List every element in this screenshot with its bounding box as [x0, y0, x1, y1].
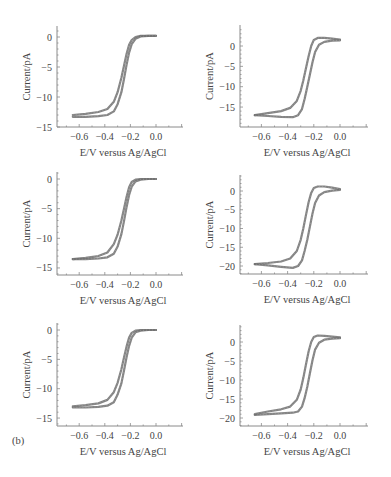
y-axis-label: Current/pA	[21, 350, 32, 398]
x-tick-label: −0.4	[96, 131, 114, 142]
voltammogram-panel-row2-left: 0−5−10−15−0.6−0.4−0.20.0E/V versus Ag/Ag…	[21, 172, 183, 306]
x-axis-label: E/V versus Ag/AgCl	[80, 295, 167, 306]
cv-trace-reverse	[73, 330, 156, 408]
y-tick-label: −5	[224, 356, 235, 367]
x-axis-label: E/V versus Ag/AgCl	[264, 147, 351, 158]
cyclic-voltammogram-figure: 0−5−10−15−0.6−0.4−0.20.0E/V versus Ag/Ag…	[0, 0, 391, 477]
y-tick-label: 0	[230, 337, 235, 348]
x-tick-label: −0.2	[305, 131, 323, 142]
y-tick-label: −5	[41, 354, 52, 365]
y-tick-label: −20	[219, 413, 235, 424]
y-tick-label: −10	[219, 81, 235, 92]
x-axis-label: E/V versus Ag/AgCl	[264, 294, 351, 305]
y-tick-label: −15	[36, 122, 52, 133]
cv-trace-forward	[255, 336, 340, 415]
x-tick-label: 0.0	[150, 279, 163, 290]
y-tick-label: −15	[219, 102, 235, 113]
x-tick-label: −0.4	[96, 430, 114, 441]
x-tick-label: 0.0	[150, 131, 163, 142]
voltammogram-panel-row1-left: 0−5−10−15−0.6−0.4−0.20.0E/V versus Ag/Ag…	[21, 26, 183, 158]
y-axis-label: Current/pA	[204, 52, 215, 100]
x-axis-label: E/V versus Ag/AgCl	[264, 446, 351, 457]
y-tick-label: −5	[224, 61, 235, 72]
x-tick-label: 0.0	[334, 278, 347, 289]
y-tick-label: 0	[47, 32, 52, 43]
y-tick-label: −10	[219, 375, 235, 386]
y-tick-label: −5	[41, 62, 52, 73]
x-tick-label: −0.6	[70, 430, 88, 441]
y-tick-label: 0	[230, 41, 235, 52]
x-tick-label: −0.6	[252, 131, 270, 142]
cv-trace-forward	[255, 187, 340, 265]
y-axis-label: Current/pA	[204, 351, 215, 399]
x-tick-label: −0.2	[121, 279, 139, 290]
y-tick-label: −15	[219, 394, 235, 405]
cv-trace-reverse	[255, 338, 340, 415]
cv-trace-forward	[73, 36, 156, 115]
x-tick-label: −0.4	[279, 430, 297, 441]
voltammogram-panel-row2-right: 0−5−10−15−20−0.6−0.4−0.20.0E/V versus Ag…	[204, 175, 368, 305]
x-tick-label: −0.6	[252, 430, 270, 441]
x-tick-label: −0.4	[96, 279, 114, 290]
y-axis-label: Current/pA	[21, 52, 32, 100]
y-axis-label: Current/pA	[204, 200, 215, 248]
x-tick-label: 0.0	[334, 131, 347, 142]
x-tick-label: −0.2	[305, 430, 323, 441]
y-tick-label: −10	[219, 223, 235, 234]
cv-trace-forward	[73, 179, 156, 259]
voltammogram-panel-row3-right: 0−5−10−15−20−0.6−0.4−0.20.0E/V versus Ag…	[204, 325, 368, 457]
y-tick-label: 0	[47, 174, 52, 185]
y-tick-label: −20	[219, 261, 235, 272]
y-tick-label: −15	[36, 413, 52, 424]
y-tick-label: 0	[47, 325, 52, 336]
y-tick-label: −5	[41, 203, 52, 214]
x-tick-label: −0.2	[121, 131, 139, 142]
x-tick-label: −0.2	[305, 278, 323, 289]
voltammogram-panel-row1-right: 0−5−10−15−0.6−0.4−0.20.0E/V versus Ag/Ag…	[204, 25, 368, 158]
voltammogram-panel-row3-left: 0−5−10−15−0.6−0.4−0.20.0E/V versus Ag/Ag…	[21, 323, 183, 457]
cv-trace-forward	[73, 330, 156, 406]
x-axis-label: E/V versus Ag/AgCl	[80, 446, 167, 457]
y-tick-label: 0	[230, 186, 235, 197]
y-tick-label: −10	[36, 383, 52, 394]
x-tick-label: −0.4	[279, 131, 297, 142]
y-axis-label: Current/pA	[21, 199, 32, 247]
panel-tag: (b)	[12, 435, 25, 447]
y-tick-label: −10	[36, 233, 52, 244]
x-tick-label: −0.2	[121, 430, 139, 441]
y-tick-label: −15	[36, 262, 52, 273]
cv-trace-reverse	[255, 40, 340, 117]
x-tick-label: −0.4	[279, 278, 297, 289]
x-tick-label: −0.6	[252, 278, 270, 289]
cv-trace-reverse	[255, 190, 340, 268]
y-tick-label: −10	[36, 92, 52, 103]
cv-trace-forward	[255, 38, 340, 115]
x-tick-label: −0.6	[70, 279, 88, 290]
cv-trace-reverse	[73, 179, 156, 259]
x-tick-label: 0.0	[150, 430, 163, 441]
x-axis-label: E/V versus Ag/AgCl	[80, 147, 167, 158]
y-tick-label: −5	[224, 204, 235, 215]
x-tick-label: −0.6	[70, 131, 88, 142]
x-tick-label: 0.0	[334, 430, 347, 441]
cv-trace-reverse	[73, 36, 156, 117]
y-tick-label: −15	[219, 242, 235, 253]
